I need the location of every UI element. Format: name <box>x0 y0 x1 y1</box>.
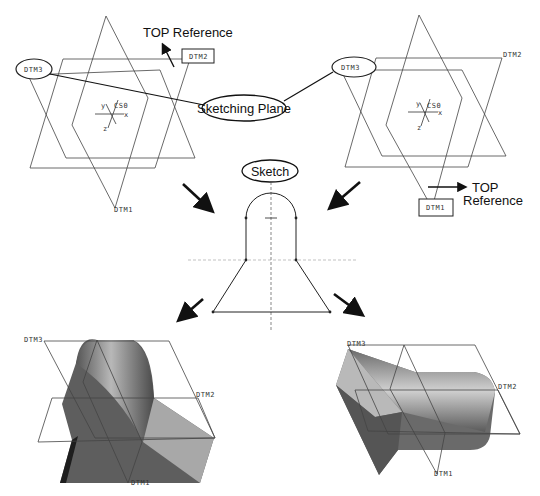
flow-arrow-1 <box>183 184 211 210</box>
svg-text:Sketch: Sketch <box>251 165 289 179</box>
svg-text:DTM1: DTM1 <box>114 206 133 214</box>
svg-text:CS0: CS0 <box>114 102 128 110</box>
svg-text:DTM2: DTM2 <box>503 51 522 59</box>
svg-text:DTM1: DTM1 <box>434 470 453 478</box>
svg-text:x: x <box>438 109 443 117</box>
svg-text:y: y <box>101 102 106 110</box>
sketch-vertices <box>212 217 332 314</box>
svg-text:DTM1: DTM1 <box>426 204 445 212</box>
sketch-profile <box>213 193 330 312</box>
svg-text:DTM1: DTM1 <box>131 479 150 487</box>
svg-text:Reference: Reference <box>463 193 523 208</box>
svg-text:DTM2: DTM2 <box>189 53 208 61</box>
svg-text:DTM2: DTM2 <box>498 383 517 391</box>
svg-text:z: z <box>103 125 108 133</box>
sketching-plane-leader-right <box>284 72 333 101</box>
svg-text:DTM3: DTM3 <box>24 336 43 344</box>
top-reference-label-left: TOP Reference <box>143 25 233 40</box>
datum-sketch-diagram: y CS0 x z DTM2 DTM3 DTM1 TOP Reference S… <box>0 0 540 496</box>
flow-arrow-4 <box>334 294 361 314</box>
svg-text:DTM3: DTM3 <box>341 64 360 72</box>
csys-icon: y CS0 x z <box>95 100 129 133</box>
dtm3-plane <box>341 70 506 156</box>
svg-text:Sketching Plane: Sketching Plane <box>197 101 291 116</box>
svg-text:y: y <box>416 100 421 108</box>
svg-text:x: x <box>124 111 129 119</box>
panel-bottom-right-solid: DTM3 DTM2 DTM1 <box>336 340 520 478</box>
svg-text:DTM3: DTM3 <box>347 340 366 348</box>
sketching-plane-leader-left <box>50 74 204 105</box>
panel-center-sketch: Sketch <box>188 160 356 330</box>
top-reference-arrow <box>163 45 174 67</box>
csys-icon: y CS0 x z <box>408 99 443 132</box>
flow-arrow-3 <box>180 299 203 319</box>
svg-text:DTM3: DTM3 <box>24 66 43 74</box>
svg-text:DTM2: DTM2 <box>196 391 215 399</box>
panel-top-right: y CS0 x z DTM2 DTM3 DTM1 TOP Reference <box>332 15 523 216</box>
panel-bottom-left-solid: DTM3 DTM2 DTM1 <box>24 336 215 487</box>
flow-arrow-2 <box>331 182 360 207</box>
svg-text:z: z <box>417 124 422 132</box>
